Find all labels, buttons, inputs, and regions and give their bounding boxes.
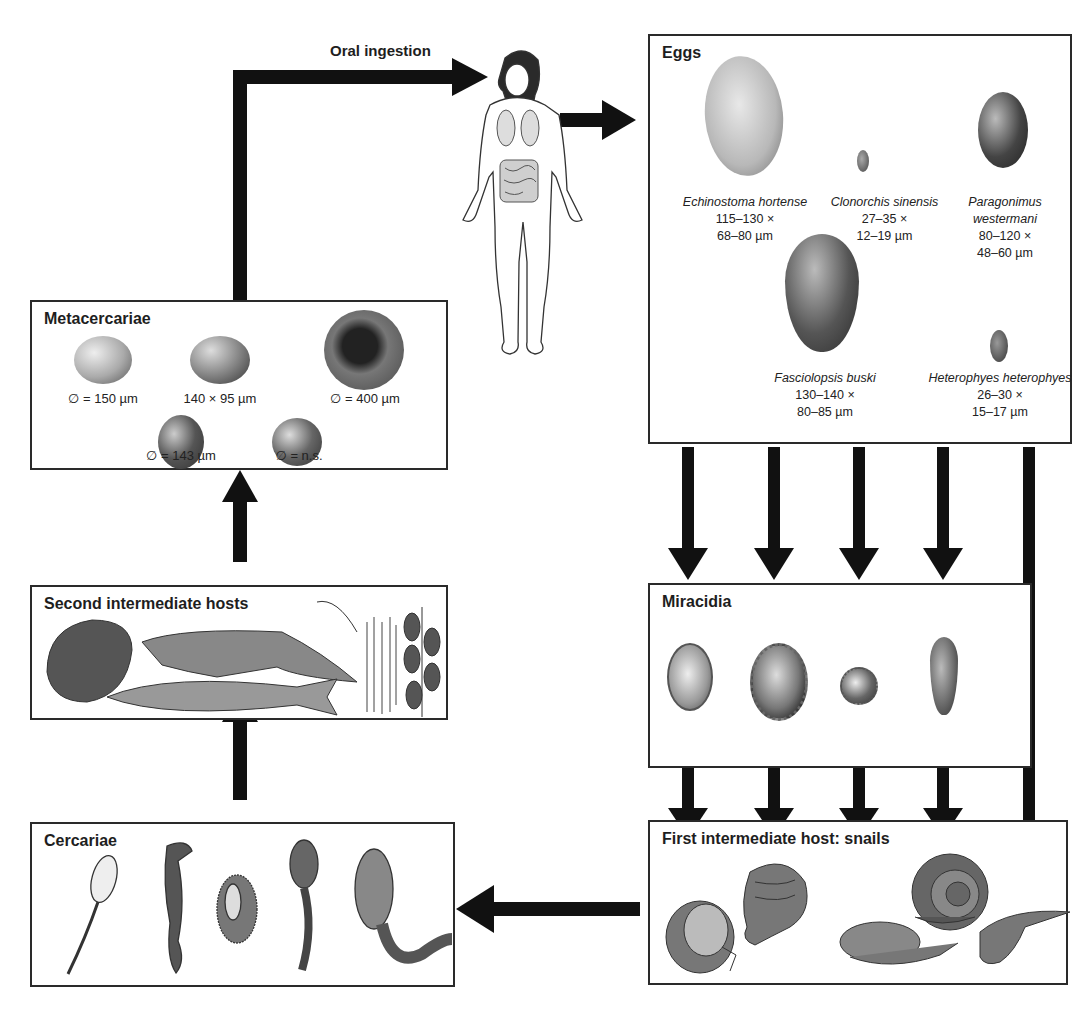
- second-hosts-box: Second intermediate hosts: [30, 585, 448, 720]
- eggs-title: Eggs: [662, 44, 701, 62]
- miracidium-3-icon: [840, 667, 878, 705]
- second-hosts-illustration: [32, 587, 450, 722]
- miracidium-2-icon: [750, 643, 808, 721]
- cercaria-2-icon: [165, 843, 192, 973]
- snail-1-icon: [666, 901, 736, 973]
- metacercaria-2-icon: [190, 336, 250, 384]
- metacercaria-5-size: ∅ = n.s.: [254, 448, 344, 463]
- water-grass-icon: [367, 617, 396, 714]
- miracidia-box: Miracidia: [648, 583, 1032, 768]
- egg-heterophyes-icon: [990, 330, 1008, 362]
- egg-echinostoma-icon: [700, 53, 788, 179]
- cercariae-illustration: [32, 824, 457, 989]
- egg-fasciolopsis-icon: [785, 234, 859, 352]
- fish-icon: [107, 679, 337, 715]
- snails-box: First intermediate host: snails: [648, 820, 1068, 985]
- miracidium-4-icon: [930, 637, 958, 715]
- miracidia-title: Miracidia: [662, 593, 731, 611]
- metacercaria-4-size: ∅ = 143 µm: [136, 448, 226, 463]
- miracidium-1-icon: [667, 643, 713, 711]
- metacercariae-box: Metacercariae ∅ = 150 µm 140 × 95 µm ∅ =…: [30, 300, 448, 470]
- egg-clonorchis-icon: [857, 150, 869, 172]
- cercaria-5-icon: [355, 849, 452, 958]
- clam-icon: [47, 620, 132, 702]
- metacercaria-2-size: 140 × 95 µm: [172, 391, 268, 406]
- metacercaria-1-size: ∅ = 150 µm: [58, 391, 148, 406]
- egg-label-heterophyes: Heterophyes heterophyes 26–30 × 15–17 µm: [915, 370, 1085, 421]
- egg-label-echinostoma: Echinostoma hortense 115–130 × 68–80 µm: [670, 194, 820, 245]
- cercaria-1-icon: [68, 853, 122, 974]
- egg-label-clonorchis: Clonorchis sinensis 27–35 × 12–19 µm: [822, 194, 947, 245]
- snail-5-icon: [980, 911, 1070, 964]
- water-plant-icon: [404, 607, 440, 717]
- cercaria-3-icon: [217, 875, 257, 943]
- egg-paragonimus-icon: [978, 92, 1028, 168]
- metacercariae-title: Metacercariae: [44, 310, 151, 328]
- snail-4-icon: [912, 854, 988, 930]
- crayfish-icon: [142, 601, 357, 682]
- metacercaria-1-icon: [74, 336, 132, 384]
- cercariae-box: Cercariae: [30, 822, 455, 987]
- metacercaria-3-size: ∅ = 400 µm: [320, 391, 410, 406]
- snails-illustration: [650, 822, 1070, 987]
- snail-2-icon: [744, 864, 807, 945]
- eggs-box: Eggs Echinostoma hortense 115–130 × 68–8…: [648, 34, 1072, 444]
- egg-label-paragonimus: Paragonimus westermani 80–120 × 48–60 µm: [950, 194, 1060, 262]
- egg-label-fasciolopsis: Fasciolopsis buski 130–140 × 80–85 µm: [750, 370, 900, 421]
- cercaria-4-icon: [290, 840, 318, 970]
- metacercaria-3-icon: [324, 310, 404, 390]
